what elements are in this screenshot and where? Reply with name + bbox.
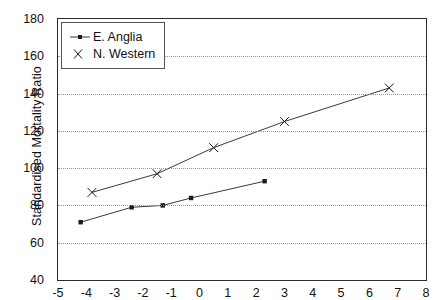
- y-tick-label: 120: [0, 125, 52, 138]
- gridline: [58, 131, 426, 132]
- gridline: [58, 94, 426, 95]
- y-tick-label: 80: [0, 199, 52, 212]
- legend: E. Anglia N. Western: [61, 22, 165, 69]
- y-tick-label: 180: [0, 13, 52, 26]
- legend-item-e-anglia: E. Anglia: [69, 28, 155, 45]
- data-point: [78, 220, 82, 224]
- chart-figure: Standardised Mortality Ratio 40608010012…: [0, 0, 442, 300]
- data-point: [262, 179, 266, 183]
- legend-label: E. Anglia: [91, 30, 142, 44]
- legend-label: N. Western: [91, 47, 155, 61]
- y-tick-label: 140: [0, 88, 52, 101]
- x-tick-label: 8: [406, 287, 442, 300]
- y-tick-label: 40: [0, 274, 52, 287]
- square-marker-icon: [69, 30, 91, 44]
- data-point: [189, 196, 193, 200]
- gridline: [58, 243, 426, 244]
- legend-item-n-western: N. Western: [69, 45, 155, 62]
- series-e-anglia: [78, 179, 266, 224]
- y-tick-label: 60: [0, 237, 52, 250]
- gridline: [58, 168, 426, 169]
- y-tick-label: 160: [0, 50, 52, 63]
- y-axis-title: Standardised Mortality Ratio: [30, 31, 44, 261]
- x-marker-icon: [69, 47, 91, 61]
- y-tick-label: 100: [0, 162, 52, 175]
- series-n-western: [88, 84, 394, 197]
- gridline: [58, 205, 426, 206]
